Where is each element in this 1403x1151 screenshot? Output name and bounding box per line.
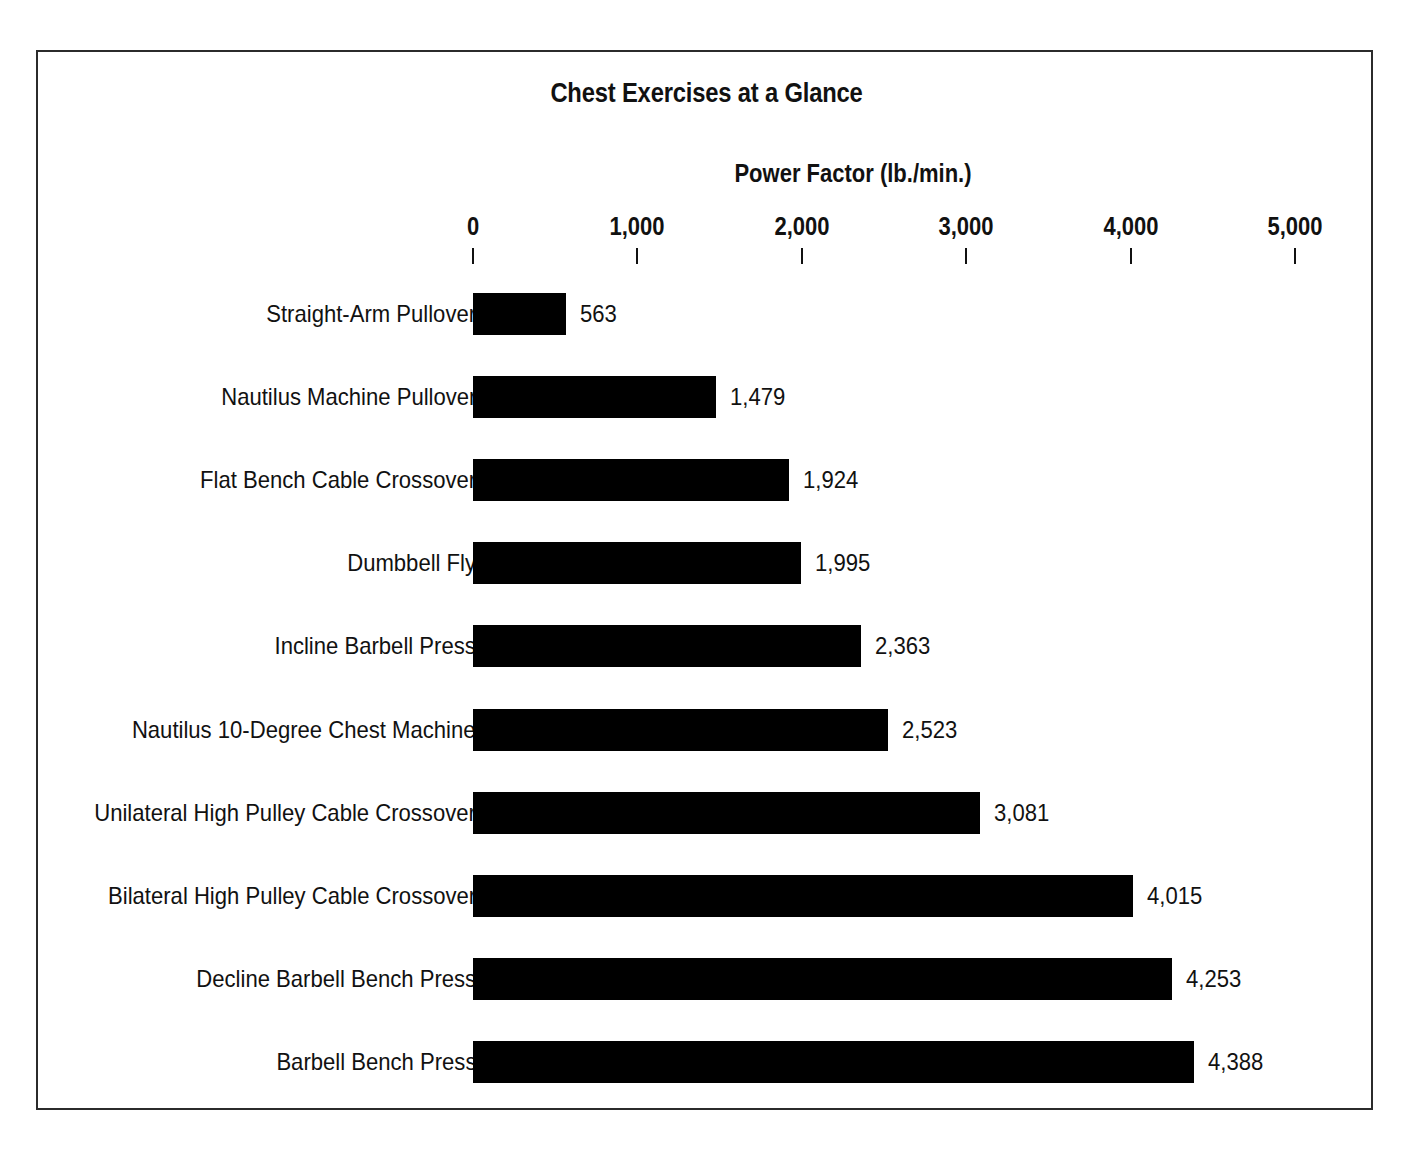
bar bbox=[473, 958, 1172, 1000]
x-tick-label: 0 bbox=[467, 212, 479, 241]
chart-frame: Chest Exercises at a Glance Power Factor… bbox=[36, 50, 1373, 1110]
bar-row: Unilateral High Pulley Cable Crossover3,… bbox=[38, 792, 1375, 834]
x-tick-mark bbox=[801, 248, 803, 264]
category-label: Incline Barbell Press bbox=[275, 632, 476, 660]
x-tick-mark bbox=[636, 248, 638, 264]
x-tick-label: 3,000 bbox=[939, 212, 994, 241]
bar-row: Straight-Arm Pullover563 bbox=[38, 293, 1375, 335]
bar-value-label: 2,523 bbox=[902, 716, 957, 744]
x-tick-label: 1,000 bbox=[610, 212, 665, 241]
x-tick-label: 5,000 bbox=[1267, 212, 1322, 241]
bar bbox=[473, 792, 980, 834]
bar-value-label: 563 bbox=[580, 300, 617, 328]
x-tick-mark bbox=[1130, 248, 1132, 264]
x-tick-label: 2,000 bbox=[774, 212, 829, 241]
bar-value-label: 3,081 bbox=[994, 799, 1049, 827]
bar-row: Nautilus Machine Pullover1,479 bbox=[38, 376, 1375, 418]
bar-value-label: 4,015 bbox=[1147, 882, 1202, 910]
bar bbox=[473, 376, 716, 418]
category-label: Straight-Arm Pullover bbox=[266, 300, 476, 328]
bar bbox=[473, 1041, 1194, 1083]
bar-row: Bilateral High Pulley Cable Crossover4,0… bbox=[38, 875, 1375, 917]
category-label: Flat Bench Cable Crossover bbox=[200, 466, 476, 494]
bar-value-label: 1,995 bbox=[815, 549, 870, 577]
plot-area: 01,0002,0003,0004,0005,000 Straight-Arm … bbox=[38, 52, 1375, 1112]
bar-value-label: 2,363 bbox=[875, 632, 930, 660]
bar bbox=[473, 459, 789, 501]
category-label: Unilateral High Pulley Cable Crossover bbox=[94, 799, 476, 827]
bar-value-label: 4,253 bbox=[1186, 965, 1241, 993]
bar-value-label: 1,924 bbox=[803, 466, 858, 494]
x-tick-mark bbox=[965, 248, 967, 264]
bar-row: Dumbbell Fly1,995 bbox=[38, 542, 1375, 584]
x-tick-mark bbox=[1294, 248, 1296, 264]
bar-row: Decline Barbell Bench Press4,253 bbox=[38, 958, 1375, 1000]
bar-row: Barbell Bench Press4,388 bbox=[38, 1041, 1375, 1083]
category-label: Nautilus Machine Pullover bbox=[221, 383, 476, 411]
bar-row: Nautilus 10-Degree Chest Machine2,523 bbox=[38, 709, 1375, 751]
bar bbox=[473, 709, 888, 751]
bar-row: Flat Bench Cable Crossover1,924 bbox=[38, 459, 1375, 501]
category-label: Nautilus 10-Degree Chest Machine bbox=[132, 716, 476, 744]
category-label: Dumbbell Fly bbox=[347, 549, 476, 577]
bar bbox=[473, 542, 801, 584]
bar bbox=[473, 875, 1133, 917]
category-label: Bilateral High Pulley Cable Crossover bbox=[108, 882, 476, 910]
bar-value-label: 4,388 bbox=[1208, 1048, 1263, 1076]
x-tick-mark bbox=[472, 248, 474, 264]
bar bbox=[473, 625, 861, 667]
bar-value-label: 1,479 bbox=[730, 383, 785, 411]
bar-row: Incline Barbell Press2,363 bbox=[38, 625, 1375, 667]
category-label: Decline Barbell Bench Press bbox=[196, 965, 476, 993]
scan-artifact bbox=[0, 0, 1403, 14]
category-label: Barbell Bench Press bbox=[276, 1048, 476, 1076]
bar bbox=[473, 293, 566, 335]
x-tick-label: 4,000 bbox=[1103, 212, 1158, 241]
